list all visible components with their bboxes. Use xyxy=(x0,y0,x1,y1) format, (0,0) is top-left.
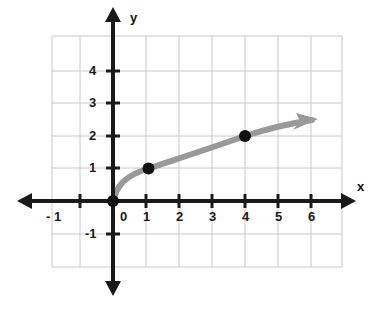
axis-arrowheads xyxy=(17,7,356,296)
y-axis-label: y xyxy=(130,11,137,24)
point-1-1 xyxy=(143,163,155,175)
x-axis-left-arrow xyxy=(17,193,32,209)
x-tick-label-neg1: - 1 xyxy=(46,210,61,223)
point-4-2 xyxy=(239,130,251,142)
point-origin xyxy=(107,195,119,207)
coordinate-plane-figure: - 1 0 1 2 3 4 5 6 4 3 2 1 -1 y x xyxy=(0,0,386,310)
x-tick-label-3: 3 xyxy=(209,210,216,223)
x-tick-label-4: 4 xyxy=(242,210,249,223)
y-tick-label-neg1: -1 xyxy=(85,227,97,240)
y-tick-label-4: 4 xyxy=(89,64,96,77)
x-axis-label: x xyxy=(357,180,364,193)
function-curve xyxy=(113,113,318,201)
axis-lines xyxy=(24,15,348,288)
y-axis-top-arrow xyxy=(105,7,121,22)
y-tick-label-2: 2 xyxy=(89,129,96,142)
y-tick-label-3: 3 xyxy=(89,96,96,109)
y-tick-label-1: 1 xyxy=(89,161,96,174)
x-tick-label-2: 2 xyxy=(176,210,183,223)
x-axis-right-arrow xyxy=(341,193,356,209)
y-axis-bottom-arrow xyxy=(105,281,121,296)
plot-canvas xyxy=(0,0,386,310)
x-tick-label-1: 1 xyxy=(143,210,150,223)
x-tick-label-0: 0 xyxy=(120,210,127,223)
x-tick-label-5: 5 xyxy=(275,210,282,223)
x-tick-label-6: 6 xyxy=(308,210,315,223)
